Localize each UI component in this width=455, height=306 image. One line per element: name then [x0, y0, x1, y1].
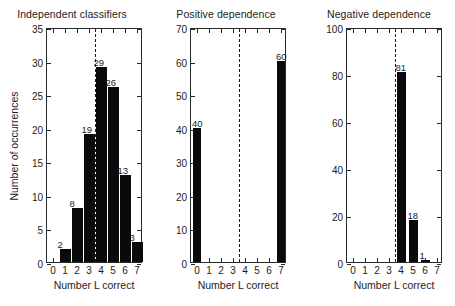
x-axis-tick-label: 5 — [110, 265, 116, 276]
bar — [397, 72, 406, 262]
x-axis-tick-mirror — [413, 29, 414, 33]
y-axis-tick-mirror — [137, 96, 141, 97]
y-axis-tick-label: 60 — [176, 57, 187, 68]
panel-positive-dependence: Positive dependence 01020304050607001234… — [152, 0, 304, 306]
y-axis-tick-label: 20 — [32, 124, 43, 135]
x-axis-tick-mirror — [101, 29, 102, 33]
x-axis-tick — [365, 258, 366, 262]
bar-value-label: 26 — [106, 78, 117, 88]
x-axis-tick-mirror — [437, 29, 438, 33]
y-axis-tick — [347, 76, 351, 77]
y-axis-tick-label: 30 — [32, 57, 43, 68]
y-axis-tick-label: 15 — [32, 158, 43, 169]
y-axis-tick — [347, 217, 351, 218]
bar — [84, 134, 95, 262]
y-axis-tick-mirror — [137, 230, 141, 231]
x-axis-tick-label: 7 — [278, 265, 284, 276]
y-axis-tick — [347, 170, 351, 171]
x-axis-tick — [257, 258, 258, 262]
x-axis-tick-label: 3 — [386, 265, 392, 276]
x-axis-tick-label: 4 — [98, 265, 104, 276]
panel-title: Independent classifiers — [0, 8, 152, 20]
x-axis-tick — [377, 258, 378, 262]
y-axis-tick-mirror — [437, 76, 441, 77]
y-axis-tick-label: 10 — [176, 225, 187, 236]
y-axis-tick-label: 20 — [332, 212, 343, 223]
x-axis-tick-label: 4 — [398, 265, 404, 276]
y-axis-tick-label: 0 — [337, 259, 343, 270]
reference-line — [395, 29, 396, 262]
x-axis-tick — [221, 258, 222, 262]
x-axis-tick — [53, 258, 54, 262]
bar-value-label: 1 — [420, 251, 425, 261]
x-axis-tick-mirror — [269, 29, 270, 33]
x-axis-tick-mirror — [233, 29, 234, 33]
y-axis-tick-label: 50 — [176, 91, 187, 102]
x-axis-tick-mirror — [77, 29, 78, 33]
x-axis-tick-mirror — [257, 29, 258, 33]
x-axis-tick — [245, 258, 246, 262]
bar-value-label: 40 — [192, 119, 203, 129]
y-axis-tick-label: 10 — [32, 191, 43, 202]
x-axis-tick — [269, 258, 270, 262]
x-axis-tick-mirror — [353, 29, 354, 33]
y-axis-tick — [47, 63, 51, 64]
bar — [409, 220, 418, 262]
y-axis-tick-label: 20 — [176, 191, 187, 202]
bar-value-label: 2 — [58, 240, 63, 250]
x-axis-tick-mirror — [281, 29, 282, 33]
plot-area: 051015202530350123456728192926133 Number… — [46, 28, 142, 263]
x-axis-tick — [437, 258, 438, 262]
y-axis-tick-label: 30 — [176, 158, 187, 169]
x-axis-tick-mirror — [389, 29, 390, 33]
y-axis-tick-label: 35 — [32, 24, 43, 35]
bar — [120, 175, 131, 262]
x-axis-tick — [389, 258, 390, 262]
y-axis-tick-mirror — [137, 130, 141, 131]
bar — [193, 128, 201, 262]
figure-canvas: Independent classifiers Number of occurr… — [0, 0, 455, 306]
y-axis-tick — [191, 29, 195, 30]
plot-area: 010203040506070012345674060 Number L cor… — [190, 28, 286, 263]
panel-independent-classifiers: Independent classifiers Number of occurr… — [0, 0, 152, 306]
reference-line — [95, 29, 96, 262]
x-axis-title: Number L correct — [54, 279, 135, 291]
bar-value-label: 3 — [130, 233, 135, 243]
y-axis-tick — [191, 96, 195, 97]
x-axis-title: Number L correct — [198, 279, 279, 291]
x-axis-tick-label: 0 — [194, 265, 200, 276]
x-axis-tick-mirror — [125, 29, 126, 33]
y-axis-tick-label: 0 — [37, 259, 43, 270]
x-axis-tick-mirror — [65, 29, 66, 33]
x-axis-tick-mirror — [401, 29, 402, 33]
x-axis-tick-label: 5 — [254, 265, 260, 276]
x-axis-tick — [209, 258, 210, 262]
x-axis-tick-mirror — [377, 29, 378, 33]
panel-negative-dependence: Negative dependence 02040608010001234567… — [304, 0, 455, 306]
x-axis-tick-label: 2 — [74, 265, 80, 276]
bar — [60, 249, 71, 262]
x-axis-tick-mirror — [365, 29, 366, 33]
y-axis-tick-label: 60 — [332, 118, 343, 129]
x-axis-tick-label: 2 — [374, 265, 380, 276]
y-axis-tick-label: 25 — [32, 91, 43, 102]
y-axis-tick-mirror — [437, 123, 441, 124]
x-axis-tick-mirror — [89, 29, 90, 33]
y-axis-tick-mirror — [137, 197, 141, 198]
reference-line — [239, 29, 240, 262]
x-axis-tick-label: 1 — [62, 265, 68, 276]
x-axis-tick-label: 7 — [434, 265, 440, 276]
x-axis-tick — [233, 258, 234, 262]
y-axis-tick-label: 0 — [181, 259, 187, 270]
x-axis-tick-label: 6 — [122, 265, 128, 276]
bar-value-label: 13 — [118, 166, 129, 176]
y-axis-tick — [47, 163, 51, 164]
y-axis-tick — [47, 29, 51, 30]
x-axis-tick-mirror — [53, 29, 54, 33]
x-axis-tick-mirror — [221, 29, 222, 33]
bar-value-label: 81 — [396, 63, 407, 73]
y-axis-tick-mirror — [137, 63, 141, 64]
x-axis-tick-label: 2 — [218, 265, 224, 276]
bar — [96, 67, 107, 262]
x-axis-tick-label: 1 — [206, 265, 212, 276]
